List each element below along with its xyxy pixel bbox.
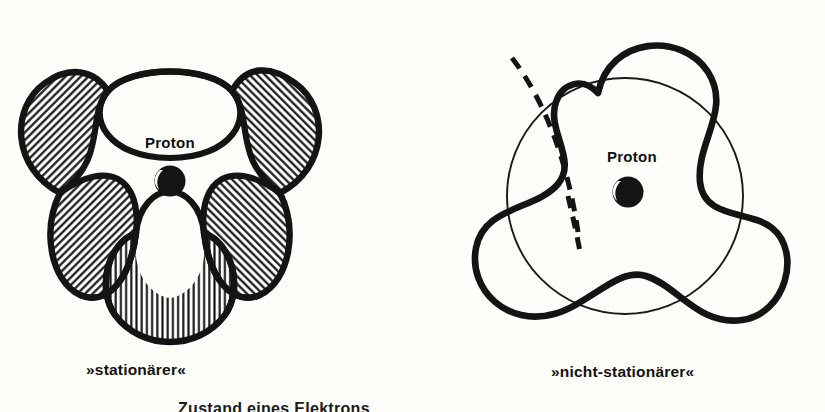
stationary-state-figure: Proton	[0, 18, 340, 348]
proton-label-right: Proton	[607, 148, 657, 165]
stationary-wave-body	[21, 70, 319, 342]
figure-root: Proton Proton »stationärer« »nicht-stati…	[0, 0, 825, 412]
proton-dot-right	[613, 177, 644, 208]
caption-stationary: »stationärer«	[86, 361, 186, 379]
non-stationary-state-figure: Proton	[450, 14, 800, 349]
caption-non-stationary: »nicht-stationärer«	[551, 363, 694, 381]
proton-label-left: Proton	[145, 134, 195, 151]
caption-bottom-clipped: Zustand eines Elektrons	[178, 400, 370, 412]
proton-dot-left	[155, 166, 186, 197]
